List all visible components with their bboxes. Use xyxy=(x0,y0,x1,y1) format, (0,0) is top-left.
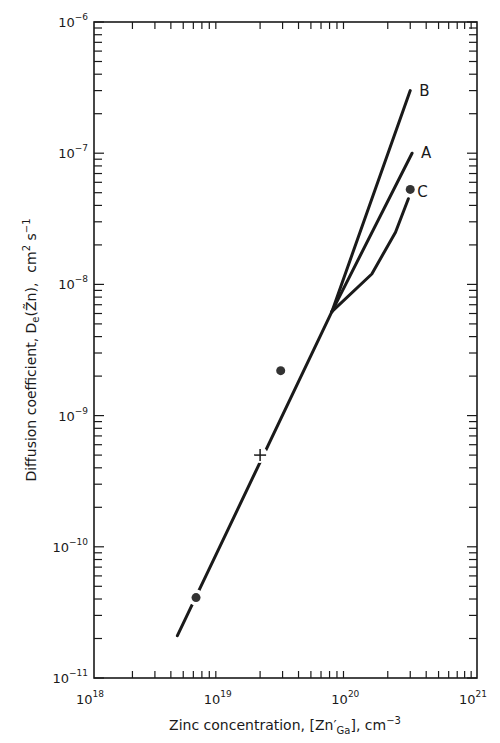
y-tick-label: 10−11 xyxy=(52,668,88,686)
x-tick-label: 1021 xyxy=(459,689,487,707)
curve-label-C: C xyxy=(417,183,427,201)
y-tick-label: 10−6 xyxy=(58,12,88,30)
y-tick-label: 10−10 xyxy=(52,537,88,555)
dot-marker xyxy=(406,185,415,194)
x-axis-title: Zinc concentration, [Zn′Ga], cm−3 xyxy=(169,715,401,736)
diffusion-chart: 101810191020102110−610−710−810−910−1010−… xyxy=(0,0,500,743)
y-tick-label: 10−8 xyxy=(58,274,88,292)
curve-C xyxy=(332,199,408,312)
x-tick-label: 1020 xyxy=(331,689,359,707)
dot-marker xyxy=(276,366,285,375)
data-series: BAC xyxy=(177,82,432,636)
y-tick-label: 10−7 xyxy=(58,143,88,161)
svg-text:Zinc concentration, [Zn′Ga], c: Zinc concentration, [Zn′Ga], cm−3 xyxy=(169,715,401,736)
svg-text:Diffusion coefficient, De(Z̃n): Diffusion coefficient, De(Z̃n),cm2 s−1 xyxy=(21,218,41,481)
y-axis-title: Diffusion coefficient, De(Z̃n),cm2 s−1 xyxy=(21,218,41,481)
dot-marker xyxy=(192,593,201,602)
axis-ticks xyxy=(94,22,477,678)
curve-A xyxy=(332,153,412,311)
tick-labels: 101810191020102110−610−710−810−910−1010−… xyxy=(52,12,487,707)
curve-label-A: A xyxy=(421,144,432,162)
curve-label-B: B xyxy=(419,82,429,100)
data-markers xyxy=(192,185,415,602)
y-tick-label: 10−9 xyxy=(58,406,88,424)
x-tick-label: 1018 xyxy=(76,689,104,707)
curve-B xyxy=(332,91,410,312)
x-tick-label: 1019 xyxy=(204,689,232,707)
curve-main xyxy=(177,312,331,636)
plot-frame xyxy=(94,22,477,678)
